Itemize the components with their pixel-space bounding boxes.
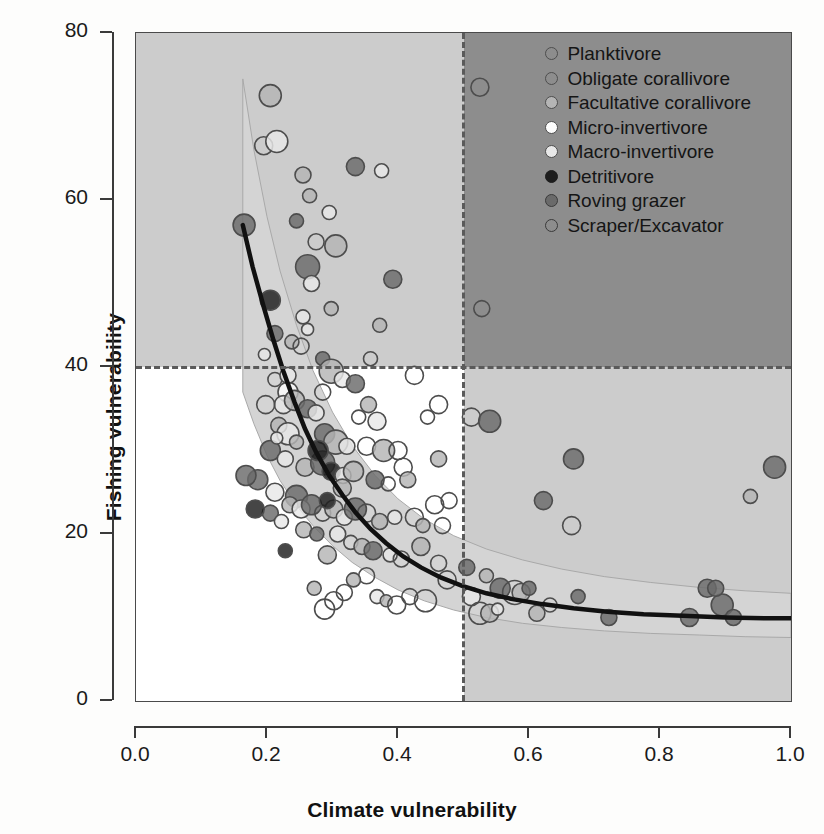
- legend-item-label: Macro-invertivore: [567, 142, 714, 161]
- y-tick-mark: [100, 365, 112, 367]
- y-tick-label: 0: [36, 686, 88, 710]
- scatter-point: [330, 526, 346, 542]
- scatter-point: [318, 546, 336, 564]
- scatter-point: [522, 581, 536, 595]
- scatter-point: [319, 493, 335, 509]
- legend-marker-icon: [545, 219, 558, 232]
- scatter-point: [400, 472, 416, 488]
- scatter-point: [474, 301, 490, 317]
- scatter-point: [431, 555, 447, 571]
- scatter-point: [266, 131, 288, 153]
- x-tick-mark: [658, 726, 660, 738]
- legend-item-scraper-excavator[interactable]: Scraper/Excavator: [545, 213, 751, 238]
- scatter-point: [346, 158, 364, 176]
- scatter-point: [563, 517, 581, 535]
- legend-item-label: Facultative corallivore: [567, 93, 751, 112]
- scatter-point: [381, 477, 395, 491]
- scatter-point: [315, 384, 331, 400]
- scatter-point: [325, 235, 347, 257]
- y-tick-label: 40: [36, 352, 88, 376]
- legend-item-label: Roving grazer: [567, 191, 685, 210]
- legend-item-facultative-corallivore[interactable]: Facultative corallivore: [545, 90, 751, 115]
- scatter-point: [266, 483, 284, 501]
- scatter-point: [412, 538, 430, 556]
- legend-marker-icon: [545, 96, 558, 109]
- scatter-point: [246, 500, 264, 518]
- scatter-point: [479, 410, 501, 432]
- scatter-point: [471, 78, 489, 96]
- legend-marker-icon: [545, 194, 558, 207]
- legend-item-label: Planktivore: [567, 44, 661, 63]
- scatter-point: [290, 435, 304, 449]
- x-tick-label: 0.4: [367, 742, 427, 766]
- scatter-point: [324, 302, 338, 316]
- y-tick-mark: [100, 699, 112, 701]
- legend-item-label: Obligate corallivore: [567, 69, 730, 88]
- legend-marker-icon: [545, 170, 558, 183]
- scatter-point: [278, 544, 292, 558]
- scatter-point: [315, 599, 335, 619]
- scatter-point: [346, 375, 364, 393]
- scatter-point: [479, 569, 493, 583]
- scatter-point: [708, 580, 724, 596]
- x-tick-mark: [527, 726, 529, 738]
- scatter-point: [492, 603, 504, 615]
- scatter-point: [307, 581, 321, 595]
- scatter-point: [384, 270, 402, 288]
- scatter-point: [405, 366, 423, 384]
- scatter-point: [296, 255, 320, 279]
- x-tick-mark: [789, 726, 791, 738]
- scatter-point: [372, 514, 388, 530]
- scatter-point: [274, 515, 288, 529]
- threshold-line-horizontal: [136, 366, 791, 369]
- scatter-point: [389, 442, 407, 460]
- scatter-point: [259, 85, 281, 107]
- scatter-point: [302, 323, 314, 335]
- scatter-point: [388, 510, 402, 524]
- scatter-point: [364, 352, 378, 366]
- scatter-point: [441, 493, 457, 509]
- scatter-point: [564, 449, 584, 469]
- x-tick-label: 0.8: [629, 742, 689, 766]
- scatter-point: [308, 234, 324, 250]
- scatter-point: [534, 492, 552, 510]
- plot-area[interactable]: PlanktivoreObligate corallivoreFacultati…: [135, 32, 792, 702]
- scatter-point: [375, 164, 389, 178]
- y-tick-mark: [100, 198, 112, 200]
- legend: PlanktivoreObligate corallivoreFacultati…: [545, 41, 751, 237]
- scatter-point: [304, 276, 320, 292]
- legend-item-label: Detritivore: [567, 167, 654, 186]
- legend-item-label: Scraper/Excavator: [567, 216, 723, 235]
- scatter-point: [271, 432, 283, 444]
- x-axis-title: Climate vulnerability: [0, 798, 824, 822]
- scatter-point: [421, 410, 435, 424]
- x-tick-mark: [265, 726, 267, 738]
- scatter-point: [258, 349, 270, 361]
- scatter-point: [416, 519, 430, 533]
- legend-item-label: Micro-invertivore: [567, 118, 707, 137]
- x-axis-line: [135, 726, 790, 728]
- y-axis-line: [112, 32, 114, 700]
- scatter-point: [303, 189, 317, 203]
- scatter-point: [764, 456, 786, 478]
- scatter-point: [368, 412, 386, 430]
- legend-marker-icon: [545, 47, 558, 60]
- scatter-point: [571, 590, 585, 604]
- legend-item-planktivore[interactable]: Planktivore: [545, 41, 751, 66]
- x-tick-label: 0.2: [236, 742, 296, 766]
- scatter-point: [293, 338, 309, 354]
- scatter-point: [373, 318, 387, 332]
- scatter-point: [277, 451, 293, 467]
- legend-item-obligate-corallivore[interactable]: Obligate corallivore: [545, 66, 751, 91]
- scatter-point: [257, 396, 275, 414]
- scatter-point: [352, 410, 366, 424]
- scatter-point: [310, 527, 324, 541]
- scatter-point: [529, 605, 545, 621]
- y-axis-title: Fishing vulnerability: [102, 313, 126, 521]
- legend-marker-icon: [545, 72, 558, 85]
- legend-item-macro-invertivore[interactable]: Macro-invertivore: [545, 139, 751, 164]
- legend-item-detritivore[interactable]: Detritivore: [545, 164, 751, 189]
- legend-item-micro-invertivore[interactable]: Micro-invertivore: [545, 115, 751, 140]
- legend-item-roving-grazer[interactable]: Roving grazer: [545, 188, 751, 213]
- x-tick-label: 0.0: [105, 742, 165, 766]
